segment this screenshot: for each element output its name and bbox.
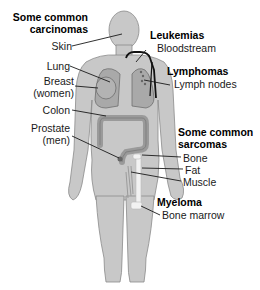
label-bone-marrow: Bone marrow	[162, 209, 224, 221]
cancer-types-diagram: Some common carcinomas Skin Lung Breast …	[0, 0, 260, 290]
label-prostate-men: (men)	[43, 134, 70, 146]
bone-marrow-icon	[131, 202, 142, 209]
carcinomas-heading-line2: carcinomas	[30, 23, 88, 35]
label-bloodstream: Bloodstream	[157, 42, 216, 54]
label-breast-women: (women)	[33, 87, 74, 99]
label-fat: Fat	[185, 164, 200, 176]
carcinomas-heading: Some common	[13, 11, 88, 23]
label-lung: Lung	[47, 60, 70, 72]
label-colon: Colon	[43, 104, 70, 116]
label-bone: Bone	[183, 152, 208, 164]
label-breast: Breast	[44, 75, 74, 87]
sarcomas-heading-line2: sarcomas	[178, 138, 227, 150]
bone-icon	[136, 157, 141, 205]
label-lymph-nodes: Lymph nodes	[174, 78, 237, 90]
label-muscle: Muscle	[183, 176, 216, 188]
leukemias-heading: Leukemias	[150, 29, 204, 41]
label-skin: Skin	[52, 40, 72, 52]
lymphomas-heading: Lymphomas	[167, 65, 228, 77]
label-prostate: Prostate	[31, 122, 70, 134]
sarcomas-heading: Some common	[178, 126, 253, 138]
myeloma-heading: Myeloma	[157, 196, 202, 208]
